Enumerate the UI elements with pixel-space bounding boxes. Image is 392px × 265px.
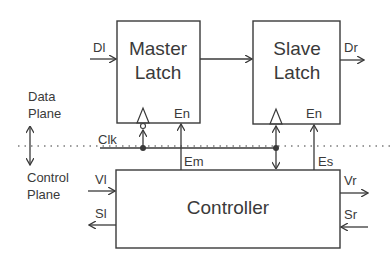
master-label-line2: Latch (135, 62, 181, 83)
master-label-line1: Master (129, 38, 188, 59)
slave-label-line1: Slave (273, 38, 321, 59)
valid-left-label: Vl (95, 172, 107, 187)
control-plane-label-1: Control (27, 170, 69, 185)
master-en-label: En (174, 106, 190, 121)
slave-label-line2: Latch (274, 62, 320, 83)
clock-triangle-icon (137, 108, 149, 123)
control-plane-label-2: Plane (27, 187, 60, 202)
enable-master-label: Em (184, 154, 204, 169)
data-in-label: Dl (93, 40, 105, 55)
valid-right-label: Vr (344, 173, 357, 188)
enable-slave-label: Es (318, 154, 334, 169)
clock-label: Clk (98, 132, 117, 147)
data-plane-label-1: Data (28, 89, 56, 104)
stall-left-label: Sl (95, 206, 107, 221)
latch-controller-diagram: Master Latch En Slave Latch En Controlle… (0, 0, 392, 265)
inverter-bubble-icon (141, 124, 146, 129)
data-out-label: Dr (344, 40, 358, 55)
data-plane-label-2: Plane (28, 106, 61, 121)
stall-right-label: Sr (344, 207, 358, 222)
slave-en-label: En (306, 106, 322, 121)
controller-label: Controller (187, 197, 270, 218)
clock-triangle-icon (270, 109, 282, 124)
